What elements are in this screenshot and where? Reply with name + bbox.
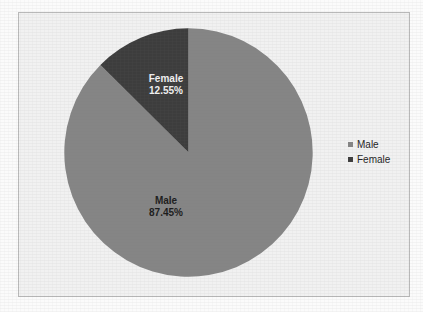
pie-chart — [64, 28, 313, 277]
legend-label-female: Female — [357, 154, 390, 165]
legend-item-female[interactable]: Female — [348, 152, 410, 167]
legend-label-male: Male — [357, 139, 379, 150]
legend-swatch-male-icon — [348, 142, 353, 147]
legend-item-male[interactable]: Male — [348, 137, 410, 152]
legend-swatch-female-icon — [348, 157, 353, 162]
slice-label-female-category: Female — [122, 73, 210, 85]
slice-label-female-value: 12.55% — [122, 85, 210, 97]
chart-legend: Male Female — [345, 133, 413, 171]
plot-area: Male 87.45% Female 12.55% Male Female — [19, 13, 409, 296]
slice-label-male-value: 87.45% — [122, 207, 210, 219]
slice-label-male-category: Male — [122, 195, 210, 207]
slice-label-male: Male 87.45% — [122, 195, 210, 219]
chart-frame: Male 87.45% Female 12.55% Male Female — [18, 12, 410, 297]
slice-label-female: Female 12.55% — [122, 73, 210, 97]
